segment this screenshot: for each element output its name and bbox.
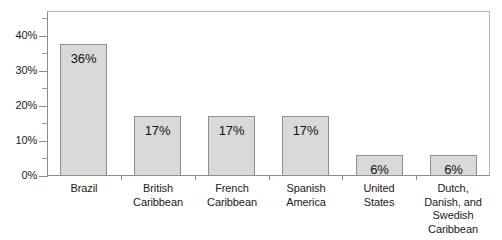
plot-area-frame <box>47 11 490 176</box>
bar-chart: 0%10%20%30%40% 36%17%17%17%6%6% BrazilBr… <box>0 0 502 240</box>
bar-value-label: 17% <box>209 124 254 138</box>
x-axis-category-label: French Caribbean <box>195 182 269 209</box>
y-axis-tick-label: 0% <box>22 170 38 181</box>
bar: 36% <box>60 44 107 176</box>
bar-value-label: 6% <box>431 163 476 177</box>
bar-value-label: 6% <box>357 163 402 177</box>
bar: 6% <box>430 155 477 176</box>
bar: 17% <box>208 116 255 176</box>
x-axis-tick <box>195 176 196 180</box>
bar-value-label: 36% <box>61 52 106 66</box>
bar: 17% <box>282 116 329 176</box>
x-axis-category-label: Brazil <box>47 182 121 196</box>
x-axis-category-label: Spanish America <box>269 182 343 209</box>
x-axis-category-label: United States <box>342 182 416 209</box>
y-axis-tick-label: 10% <box>16 135 37 146</box>
x-axis-tick <box>121 176 122 180</box>
y-axis-labels: 0%10%20%30%40% <box>0 0 47 240</box>
x-axis-tick <box>416 176 417 180</box>
x-axis-category-label: British Caribbean <box>121 182 195 209</box>
y-axis-tick-label: 40% <box>16 30 37 41</box>
bar-value-label: 17% <box>135 124 180 138</box>
bar: 17% <box>134 116 181 176</box>
bar: 6% <box>356 155 403 176</box>
x-axis-tick <box>342 176 343 180</box>
x-axis-tick <box>269 176 270 180</box>
x-axis-category-label: Dutch, Danish, and Swedish Caribbean <box>416 182 490 236</box>
y-axis-tick-label: 20% <box>16 100 37 111</box>
bar-value-label: 17% <box>283 124 328 138</box>
y-axis-tick-label: 30% <box>16 65 37 76</box>
